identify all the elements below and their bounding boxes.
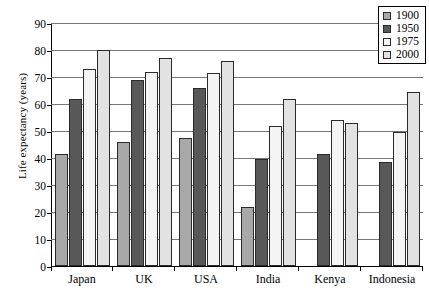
x-axis-labels: JapanUKUSAIndiaKenyaIndonesia [51,272,423,287]
bar [83,69,96,266]
y-tick-label: 0 [40,261,46,273]
category-separator [298,266,299,271]
bar [241,207,254,266]
bar [255,159,268,266]
x-axis-label: India [237,272,299,287]
y-tick-label: 90 [35,18,47,30]
legend-item: 2000 [383,48,419,61]
legend-item-label: 1975 [396,36,419,48]
bar [407,92,420,266]
bar [345,123,358,266]
bar-group [113,23,175,266]
category-separator [236,266,237,271]
y-tick-label: 60 [35,99,47,111]
bar-slot [255,23,268,266]
bar-slot [55,23,68,266]
bar-slot [303,23,316,266]
bar [317,154,330,266]
bar-group [51,23,113,266]
x-axis-label: UK [113,272,175,287]
bar [331,120,344,266]
x-axis-label: USA [175,272,237,287]
legend-swatch-icon [383,38,391,46]
legend-item-label: 1950 [396,23,419,35]
x-axis-label: Japan [51,272,113,287]
y-tick-label: 30 [35,180,47,192]
bar [269,126,282,266]
bar-slot [269,23,282,266]
bar-slot [345,23,358,266]
plot-area: 0102030405060708090 [51,23,423,266]
y-axis-title: Life expectancy (years) [16,46,28,206]
legend-swatch-icon [383,12,391,20]
bar-slot [69,23,82,266]
bar-slot [365,23,378,266]
category-separator [422,266,423,271]
bar [131,80,144,266]
bar [159,58,172,266]
y-tick-label: 70 [35,72,47,84]
y-tick-label: 20 [35,207,47,219]
legend-item: 1950 [383,22,419,35]
bar [193,88,206,266]
bar-slot [241,23,254,266]
legend-item: 1975 [383,35,419,48]
bar-slot [159,23,172,266]
bar [179,138,192,266]
bar-slot [83,23,96,266]
y-tick-label: 10 [35,234,47,246]
grid-line: 0 [51,266,423,267]
bar [393,132,406,266]
bar [69,99,82,266]
bar-slot [221,23,234,266]
bar [207,73,220,266]
category-separator [51,266,52,271]
bar-groups [51,23,423,266]
legend-swatch-icon [383,25,391,33]
x-axis-label: Kenya [299,272,361,287]
x-axis-label: Indonesia [361,272,423,287]
bar-slot [283,23,296,266]
bar [221,61,234,266]
legend: 1900195019752000 [378,6,426,64]
bar [145,72,158,266]
category-separator [112,266,113,271]
bar-group [175,23,237,266]
bar-slot [97,23,110,266]
bar-slot [131,23,144,266]
legend-item-label: 1900 [396,10,419,22]
y-tick-label: 80 [35,45,47,57]
bar-slot [145,23,158,266]
bar-group [299,23,361,266]
bar-slot [117,23,130,266]
bar [283,99,296,266]
bar-slot [207,23,220,266]
bar-slot [179,23,192,266]
bar [97,50,110,266]
bar [379,162,392,266]
y-tick-label: 40 [35,153,47,165]
legend-swatch-icon [383,51,391,59]
y-tick-label: 50 [35,126,47,138]
legend-item-label: 2000 [396,49,419,61]
bar [117,142,130,266]
legend-item: 1900 [383,9,419,22]
category-separator [360,266,361,271]
bar-slot [317,23,330,266]
category-separator [174,266,175,271]
bar [55,154,68,266]
bar-slot [331,23,344,266]
bar-chart: Life expectancy (years) 0102030405060708… [0,0,429,304]
bar-group [237,23,299,266]
bar-slot [193,23,206,266]
